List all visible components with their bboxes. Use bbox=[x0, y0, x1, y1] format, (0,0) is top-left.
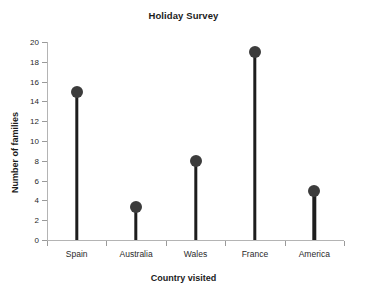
y-tick: 14 bbox=[0, 101, 47, 102]
x-tick-label: Spain bbox=[66, 249, 88, 259]
y-tick-label: 18 bbox=[30, 57, 39, 66]
x-tick-mark bbox=[225, 241, 226, 246]
data-point-marker bbox=[308, 185, 320, 197]
x-axis-label: Country visited bbox=[0, 273, 367, 283]
y-tick-label: 2 bbox=[35, 216, 39, 225]
y-tick: 2 bbox=[0, 220, 47, 221]
data-point-marker bbox=[249, 46, 261, 58]
chart-container: Holiday Survey Number of families 024681… bbox=[0, 0, 367, 298]
y-tick: 20 bbox=[0, 42, 47, 43]
y-tick-label: 8 bbox=[35, 156, 39, 165]
y-tick: 4 bbox=[0, 200, 47, 201]
x-axis-line bbox=[47, 240, 344, 241]
y-tick: 16 bbox=[0, 82, 47, 83]
x-tick-mark bbox=[285, 241, 286, 246]
data-stem bbox=[75, 92, 78, 241]
y-tick: 12 bbox=[0, 121, 47, 122]
y-tick-label: 6 bbox=[35, 176, 39, 185]
y-tick: 18 bbox=[0, 62, 47, 63]
y-tick-label: 20 bbox=[30, 38, 39, 47]
x-tick-mark bbox=[344, 241, 345, 246]
x-tick-mark bbox=[166, 241, 167, 246]
x-tick-label: France bbox=[242, 249, 268, 259]
y-axis-ticks: 02468101214161820 bbox=[0, 42, 47, 241]
chart-title: Holiday Survey bbox=[0, 10, 367, 21]
y-tick-label: 14 bbox=[30, 97, 39, 106]
data-point-marker bbox=[130, 201, 142, 213]
data-point-marker bbox=[71, 86, 83, 98]
data-stem bbox=[253, 52, 256, 240]
data-stem bbox=[194, 161, 197, 240]
data-point-marker bbox=[190, 155, 202, 167]
data-stem bbox=[313, 191, 316, 241]
y-tick-label: 4 bbox=[35, 196, 39, 205]
y-tick: 6 bbox=[0, 181, 47, 182]
x-tick-label: America bbox=[299, 249, 330, 259]
x-tick-label: Wales bbox=[184, 249, 207, 259]
y-tick: 10 bbox=[0, 141, 47, 142]
x-tick-label: Australia bbox=[120, 249, 153, 259]
y-tick: 8 bbox=[0, 161, 47, 162]
x-tick-mark bbox=[106, 241, 107, 246]
y-tick-label: 16 bbox=[30, 77, 39, 86]
y-tick-label: 0 bbox=[35, 236, 39, 245]
plot-area bbox=[47, 42, 344, 240]
y-tick: 0 bbox=[0, 240, 47, 241]
y-tick-label: 12 bbox=[30, 117, 39, 126]
x-tick-mark bbox=[47, 241, 48, 246]
y-tick-label: 10 bbox=[30, 137, 39, 146]
